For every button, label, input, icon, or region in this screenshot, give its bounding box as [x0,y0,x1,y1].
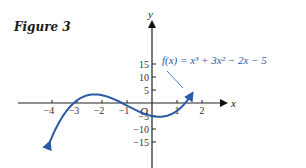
x-axis-label: x [230,97,236,109]
y-tick-label: 10 [139,72,149,83]
y-axis-label: y [147,8,153,20]
annotation-leader [167,71,183,88]
x-tick-label: −2 [94,105,105,116]
y-tick-label: 5 [144,85,149,96]
x-tick-label: −4 [44,105,55,116]
function-annotation: f(x) = x³ + 3x² − 2x − 5 [162,54,267,67]
y-tick-label: −10 [133,124,149,135]
y-tick-label: 15 [139,59,149,70]
x-tick-label: 2 [200,105,205,116]
chart: −4−3−2−11215105−5−10−15 x y O f(x) = x³ … [0,0,306,168]
function-curve [50,94,193,143]
axes [18,22,226,168]
y-tick-label: −15 [133,137,149,148]
